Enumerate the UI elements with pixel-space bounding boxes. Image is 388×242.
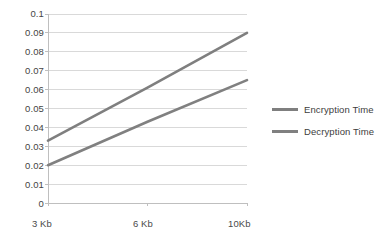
x-tick-label-3kb: 3 Kb bbox=[32, 219, 52, 229]
x-tick-label-6kb: 6 Kb bbox=[133, 219, 153, 229]
legend-item-encryption-time: Encryption Time bbox=[272, 98, 388, 120]
legend-label: Decryption Time bbox=[304, 126, 374, 137]
series-line-encryption-time bbox=[48, 33, 247, 141]
legend-label: Encryption Time bbox=[304, 104, 374, 115]
series-line-decryption-time bbox=[48, 80, 247, 165]
legend-swatch-icon bbox=[272, 108, 298, 111]
gridlines bbox=[48, 14, 247, 184]
chart-legend: Encryption Time Decryption Time bbox=[272, 98, 388, 142]
x-tick-label-10kb: 10Kb bbox=[228, 219, 251, 229]
legend-item-decryption-time: Decryption Time bbox=[272, 120, 388, 142]
plot-area: 3 Kb 6 Kb 10Kb bbox=[0, 0, 268, 242]
line-chart: 0.1 0.09 0.08 0.07 0.06 0.05 0.04 0.03 0… bbox=[0, 0, 388, 242]
legend-swatch-icon bbox=[272, 130, 298, 133]
plot-svg bbox=[0, 0, 268, 242]
